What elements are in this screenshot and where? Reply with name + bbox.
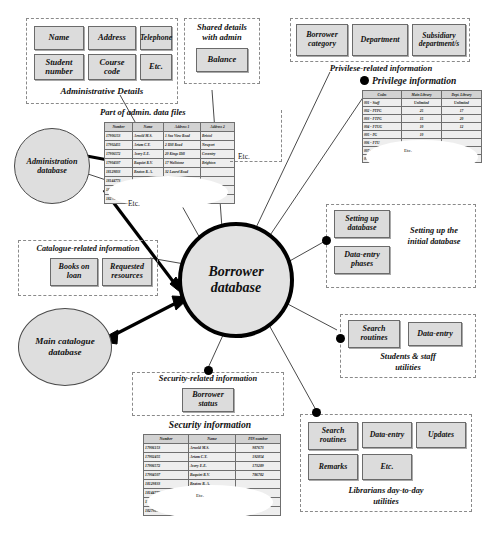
field-setting-up-database-label-2: database [348,224,377,233]
table-row: 005 - PG10 [363,131,482,139]
field-course-code[interactable]: Course code [88,54,136,80]
th-name: Name [133,123,164,132]
field-librarians-etc-label: Etc. [381,463,394,472]
field-data-entry-phases[interactable]: Data-entry phases [334,246,390,274]
table-row: 004 - FTUG1012 [363,123,482,131]
node-administration-database[interactable]: Administration database [14,128,90,204]
connector-dot-students-staff [336,334,345,343]
table-admin-fade-mask [108,176,228,208]
field-admin-etc[interactable]: Etc. [140,54,172,80]
caption-privilege-information: Privilege information [372,76,480,87]
table-row: 17902455Artam C.Y.2 Hill RoadNewport [105,141,235,150]
th-dept-library: Dept. Library [442,91,482,99]
field-setting-up-database[interactable]: Setting up database [334,210,390,238]
field-balance-label: Balance [208,55,237,64]
th-sec-number: Number [144,435,189,444]
field-remarks-label: Remarks [319,463,348,472]
field-data-entry-librarians[interactable]: Data-entry [362,422,412,448]
caption-shared-details-2: with admin [184,33,260,43]
table-row: 002 - PTPG2517 [363,107,482,115]
caption-setting-up-1: Setting up the [394,226,474,235]
field-address-label: Address [98,33,126,42]
field-balance[interactable]: Balance [196,48,248,72]
node-administration-database-label-2: database [37,166,67,175]
field-data-entry-phases-label-2: phases [351,260,373,269]
etc-admin-data-files-bottom: Etc. [128,199,140,208]
table-row: 17906572Avery E.E.173289 [144,462,281,471]
field-books-on-loan-label-2: loan [67,272,82,281]
table-header-row: Codes Main Library Dept. Library [363,91,482,99]
field-search-routines-librarians[interactable]: Search routines [308,422,358,450]
caption-security-information: Security information [140,420,280,431]
field-department[interactable]: Department [352,24,408,56]
node-borrower-database-label-2: database [211,280,262,296]
field-borrower-category-label-2: category [308,40,336,49]
field-department-label: Department [360,36,399,45]
th-sec-name: Name [189,435,236,444]
field-name[interactable]: Name [34,26,84,50]
table-row: 003 - FTPG1520 [363,115,482,123]
caption-students-staff-1: Students & staff [340,352,476,361]
field-updates[interactable]: Updates [416,422,466,448]
field-search-routines-students[interactable]: Search routines [348,320,400,348]
table-header-row: Number Name Address 1 Address 2 [105,123,235,132]
th-address-1: Address 1 [164,123,201,132]
group-admin-etc-extension [230,110,282,162]
th-main-library: Main Library [402,91,442,99]
caption-students-staff-2: utilities [340,363,476,372]
caption-admin-data-files: Part of admin. data files [100,108,230,118]
caption-security-related: Security-related information [132,374,284,383]
node-main-catalogue-database[interactable]: Main catalogue database [18,308,112,386]
field-address[interactable]: Address [88,26,136,50]
field-subsidiary-department[interactable]: Subsidiary department/s [412,24,466,56]
th-codes: Codes [363,91,402,99]
table-security-fade-mask [147,485,273,519]
field-borrower-status-label-2: status [198,400,217,409]
connector-dot-privilege-table [360,76,369,85]
field-student-number-label-2: number [45,67,72,76]
table-privilege-fade-mask [366,140,478,174]
field-books-on-loan[interactable]: Books on loan [50,258,98,286]
table-row: 17906572Avery E.E.20 Kings HillCoventry [105,150,235,159]
table-row: 001 - StaffUnlimitedUnlimited [363,99,482,107]
caption-catalogue-related: Catalogue-related information [18,244,158,253]
field-requested-resources[interactable]: Requested resources [102,258,152,286]
field-requested-resources-label-2: resources [111,272,143,281]
connector-dot-librarians [312,408,321,417]
field-remarks[interactable]: Remarks [308,454,358,480]
connector-dot-setting-up [322,236,331,245]
field-student-number[interactable]: Student number [34,54,84,80]
field-course-code-label-2: code [104,67,120,76]
caption-librarians-1: Librarians day-to-day [300,486,472,495]
field-data-entry-students[interactable]: Data-entry [408,322,462,346]
field-subsidiary-department-label-2: department/s [419,40,460,48]
caption-setting-up-2: initial database [394,237,474,246]
caption-librarians-2: utilities [300,497,472,506]
etc-privilege-information: Etc. [404,148,412,153]
etc-security-information: Etc. [196,493,204,498]
table-row: 17904507Baquiet R.V.786782 [144,471,281,480]
field-telephone-label: Telephone [140,34,172,42]
node-borrower-database[interactable]: Borrower database [178,222,294,338]
th-number: Number [105,123,133,132]
node-main-catalogue-database-label-2: database [48,347,81,358]
th-sec-pin: PIN number [236,435,281,444]
table-row: 17902455Artam C.Y.192854 [144,453,281,462]
table-row: 17904507Baquiet R.V.17 WallstoneBrighton [105,159,235,168]
table-row: 17906153Arnold M.S.1 Sea View RoadBristo… [105,132,235,141]
table-header-row: Number Name PIN number [144,435,281,444]
caption-administrative-details: Administrative Details [26,86,178,96]
field-librarians-etc[interactable]: Etc. [362,454,412,480]
node-main-catalogue-database-label-1: Main catalogue [35,336,94,347]
field-telephone[interactable]: Telephone [140,26,172,50]
field-data-entry-librarians-label: Data-entry [370,431,405,440]
field-borrower-category[interactable]: Borrower category [296,24,348,56]
caption-privilege-related: Privilese-related information [286,64,476,74]
field-admin-etc-label: Etc. [149,62,163,71]
field-search-routines-students-label-2: routines [360,334,387,343]
node-borrower-database-label-1: Borrower [208,264,263,280]
field-search-routines-librarians-label-2: routines [320,436,346,445]
field-data-entry-students-label: Data-entry [417,330,453,339]
field-borrower-status[interactable]: Borrower status [182,388,234,412]
